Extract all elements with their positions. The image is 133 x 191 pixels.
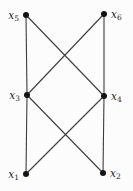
edge-x6-x3 (27, 14, 104, 95)
node-x1 (23, 171, 29, 177)
node-label-sub-x2: 2 (116, 172, 121, 181)
node-label-x1: x1 (8, 168, 19, 183)
node-label-x4: x4 (111, 90, 122, 105)
node-x4 (101, 93, 107, 99)
node-x3 (24, 92, 30, 98)
node-label-x5: x5 (8, 9, 19, 24)
edge-x4-x2 (103, 96, 104, 173)
edge-x5-x3 (26, 15, 27, 95)
node-x2 (100, 170, 106, 176)
graph-diagram-page: x5x6x3x4x1x2 (0, 0, 133, 191)
edge-x3-x1 (26, 95, 27, 174)
node-label-x3: x3 (9, 89, 20, 104)
node-label-x6: x6 (111, 8, 122, 23)
node-label-sub-x6: 6 (117, 13, 122, 22)
node-label-sub-x4: 4 (117, 95, 122, 104)
node-label-sub-x3: 3 (15, 94, 20, 103)
node-label-sub-x5: 5 (14, 14, 19, 23)
graph-diagram-canvas: x5x6x3x4x1x2 (0, 0, 133, 191)
node-label-x2: x2 (110, 167, 121, 182)
node-x5 (23, 12, 29, 18)
node-label-sub-x1: 1 (14, 173, 19, 182)
node-x6 (101, 11, 107, 17)
